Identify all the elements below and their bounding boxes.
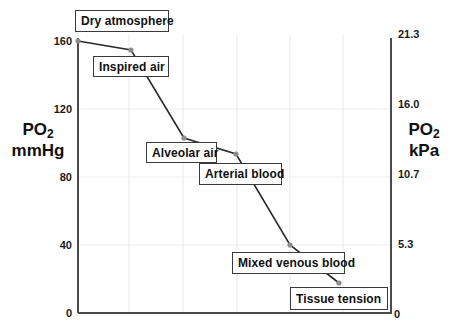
y2-axis-tick-21-3: 21.3 (398, 29, 419, 40)
y2-axis-title-line2: kPa (409, 141, 439, 160)
y-axis-tick-120: 120 (46, 104, 72, 115)
callout-alveolar-air: Alveolar air (146, 142, 217, 163)
data-point-arterial-blood (233, 151, 238, 156)
callout-mixed-venous-blood: Mixed venous blood (232, 252, 345, 274)
y2-axis-tick-0: 0 (394, 309, 400, 320)
callout-dry-atmosphere: Dry atmosphere (75, 10, 169, 32)
y-axis-tick-80: 80 (46, 172, 72, 183)
y-axis-title-line1: PO2 (22, 120, 53, 139)
y-axis-tick-40: 40 (46, 240, 72, 251)
callout-arterial-blood: Arterial blood (199, 163, 282, 185)
data-point-dry-atmosphere (75, 38, 80, 43)
y-axis-title-line2: mmHg (12, 141, 65, 160)
y2-axis-tick-16-0: 16.0 (398, 99, 419, 110)
data-point-alveolar-air (181, 135, 186, 140)
y2-axis-title: PO2 kPa (400, 120, 448, 160)
callout-inspired-air: Inspired air (93, 56, 169, 77)
y2-axis-tick-5-3: 5.3 (398, 239, 413, 250)
y-axis-tick-160: 160 (46, 36, 72, 47)
y2-axis-title-line1: PO2 (408, 120, 439, 139)
y-axis-tick-0: 0 (46, 308, 72, 319)
y-axis-title: PO2 mmHg (4, 120, 72, 160)
y2-axis-tick-10-7: 10.7 (398, 169, 419, 180)
data-point-tissue-tension (336, 280, 341, 285)
data-point-mixed-venous (287, 242, 292, 247)
callout-tissue-tension: Tissue tension (290, 287, 388, 310)
chart-figure: 160 120 80 40 0 21.3 16.0 10.7 5.3 0 PO2… (0, 0, 452, 333)
data-point-inspired-air (128, 47, 133, 52)
